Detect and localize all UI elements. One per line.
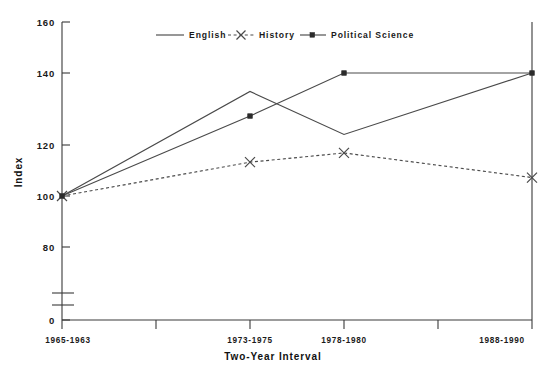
y-tick-label-120: 120 bbox=[37, 140, 55, 151]
legend-label-history: History bbox=[259, 30, 295, 40]
line-chart: 160 140 120 100 80 0 Index 1965-1963 197… bbox=[0, 0, 546, 365]
x-tick-label-1965-1963: 1965-1963 bbox=[45, 336, 90, 345]
chart-canvas: 160 140 120 100 80 0 Index 1965-1963 197… bbox=[0, 0, 546, 365]
series-line-political-science bbox=[62, 73, 532, 196]
legend-label-english: English bbox=[189, 30, 226, 40]
series-line-english bbox=[62, 73, 532, 196]
x-tick-label-1988-1990: 1988-1990 bbox=[479, 336, 524, 345]
legend-swatch-polisci-square-icon bbox=[310, 33, 315, 38]
y-tick-label-140: 140 bbox=[37, 68, 55, 79]
y-axis-title: Index bbox=[13, 157, 24, 188]
series-line-history bbox=[62, 153, 532, 196]
x-tick-label-1978-1980: 1978-1980 bbox=[321, 336, 366, 345]
data-point-marker-square bbox=[530, 71, 535, 76]
data-point-marker-square bbox=[342, 71, 347, 76]
y-tick-label-160: 160 bbox=[37, 17, 55, 28]
legend-swatch-history-x-icon bbox=[237, 31, 246, 40]
chart-legend: English History Political Science bbox=[156, 30, 414, 40]
data-point-marker-square bbox=[248, 114, 253, 119]
legend-label-political-science: Political Science bbox=[331, 30, 414, 40]
y-tick-label-0: 0 bbox=[49, 315, 55, 326]
series-layer bbox=[57, 71, 537, 201]
x-axis-title: Two-Year Interval bbox=[224, 351, 321, 362]
data-point-marker-square bbox=[60, 194, 65, 199]
x-tick-label-1973-1975: 1973-1975 bbox=[227, 336, 272, 345]
y-tick-label-100: 100 bbox=[37, 191, 55, 202]
y-tick-label-80: 80 bbox=[43, 242, 55, 253]
data-point-marker-x bbox=[245, 157, 255, 167]
